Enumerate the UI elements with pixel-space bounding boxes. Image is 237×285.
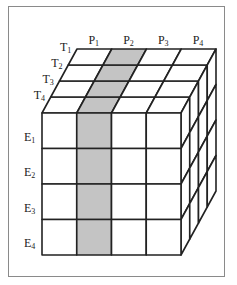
front-cell bbox=[146, 149, 181, 185]
front-cell bbox=[77, 220, 112, 256]
front-cell bbox=[42, 184, 77, 220]
front-cell bbox=[77, 184, 112, 220]
front-cell bbox=[77, 113, 112, 149]
front-cell bbox=[112, 220, 147, 256]
front-cell bbox=[42, 149, 77, 185]
t-label-1: T1 bbox=[60, 40, 71, 55]
front-cell bbox=[42, 220, 77, 256]
front-cell bbox=[146, 113, 181, 149]
front-cell bbox=[112, 184, 147, 220]
cube-diagram: P1P2P3P4T1T2T3T4E1E2E3E4 bbox=[0, 0, 237, 285]
e-label-3: E3 bbox=[24, 201, 35, 216]
front-cell bbox=[146, 220, 181, 256]
t-label-3: T3 bbox=[43, 72, 54, 87]
e-label-1: E1 bbox=[24, 130, 35, 145]
front-cell bbox=[112, 113, 147, 149]
p-label-3: P3 bbox=[158, 33, 169, 48]
p-label-4: P4 bbox=[193, 33, 204, 48]
front-cell bbox=[42, 113, 77, 149]
p-label-1: P1 bbox=[88, 33, 99, 48]
front-cell bbox=[146, 184, 181, 220]
e-label-2: E2 bbox=[24, 165, 35, 180]
t-label-4: T4 bbox=[34, 88, 45, 103]
front-cell bbox=[112, 149, 147, 185]
t-label-2: T2 bbox=[51, 56, 62, 71]
p-label-2: P2 bbox=[123, 33, 134, 48]
e-label-4: E4 bbox=[24, 236, 35, 251]
front-cell bbox=[77, 149, 112, 185]
